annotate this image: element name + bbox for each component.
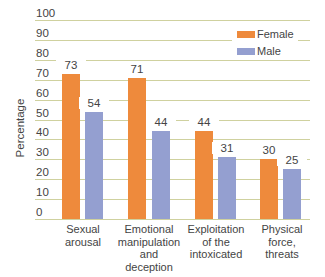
- legend-label-female: Female: [257, 28, 294, 40]
- y-axis-label: Percentage: [14, 99, 26, 158]
- y-tick-90: 90: [36, 27, 49, 39]
- y-tick-80: 80: [36, 47, 49, 59]
- legend-item-male: Male: [237, 46, 281, 56]
- y-tick-0: 0: [36, 206, 42, 218]
- y-tick-30: 30: [36, 146, 49, 158]
- legend-item-female: Female: [237, 29, 294, 39]
- bar-female-3: [260, 159, 278, 219]
- y-tick-60: 60: [36, 87, 49, 99]
- value-label-male-3: 25: [277, 154, 307, 166]
- bar-male-3: [283, 169, 301, 219]
- y-tick-100: 100: [36, 7, 55, 19]
- y-tick-10: 10: [36, 186, 49, 198]
- gridline-0: [35, 219, 310, 220]
- bar-chart: 0102030405060708090100 Percentage 737144…: [0, 0, 325, 277]
- legend: Female Male: [232, 25, 298, 58]
- bar-female-2: [195, 131, 213, 219]
- legend-label-male: Male: [257, 45, 281, 57]
- male-swatch-icon: [237, 48, 255, 55]
- category-label-3: Physicalforce,threats: [240, 223, 324, 261]
- value-label-female-1: 71: [122, 63, 152, 75]
- gridline-100: [35, 20, 310, 21]
- bar-male-2: [218, 157, 236, 219]
- bar-female-0: [62, 74, 80, 219]
- value-label-male-1: 44: [146, 116, 176, 128]
- value-label-female-2: 44: [189, 116, 219, 128]
- female-swatch-icon: [237, 31, 255, 38]
- value-label-female-0: 73: [56, 59, 86, 71]
- bar-male-1: [152, 131, 170, 219]
- y-tick-40: 40: [36, 126, 49, 138]
- y-tick-20: 20: [36, 166, 49, 178]
- y-tick-70: 70: [36, 67, 49, 79]
- y-tick-50: 50: [36, 107, 49, 119]
- value-label-male-0: 54: [79, 97, 109, 109]
- value-label-male-2: 31: [212, 142, 242, 154]
- bar-male-0: [85, 112, 103, 219]
- bar-female-1: [128, 78, 146, 219]
